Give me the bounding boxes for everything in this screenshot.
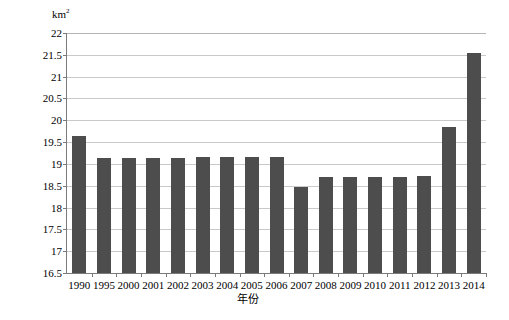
x-axis-tick-label: 2003	[192, 279, 214, 291]
y-axis-unit-label: km2	[52, 8, 70, 20]
x-axis-tick-label: 2000	[118, 279, 140, 291]
y-axis-unit-superscript: 2	[66, 7, 70, 15]
bar[interactable]	[146, 158, 160, 273]
y-axis-tick-label: 18.5	[43, 180, 62, 191]
x-axis-tick-mark	[264, 273, 265, 277]
bar[interactable]	[122, 158, 136, 273]
x-axis-tick-mark	[437, 273, 438, 277]
x-axis-tick-label: 1990	[68, 279, 90, 291]
x-axis-title: 年份	[0, 293, 509, 306]
y-axis-tick-label: 21.5	[43, 49, 62, 60]
x-axis-tick-mark	[116, 273, 117, 277]
y-axis-tick-label: 17.5	[43, 224, 62, 235]
y-axis-tick-label: 19.5	[43, 137, 62, 148]
x-axis-tick-mark	[289, 273, 290, 277]
x-axis-tick-label: 2014	[463, 279, 485, 291]
x-axis-tick-label: 2012	[413, 279, 435, 291]
bar[interactable]	[97, 158, 111, 273]
x-axis-tick-label: 2011	[389, 279, 411, 291]
y-axis-tick-label: 16.5	[43, 268, 62, 279]
x-axis-tick-label: 2004	[216, 279, 238, 291]
x-axis-tick-label: 2007	[290, 279, 312, 291]
x-axis-tick-mark	[313, 273, 314, 277]
x-axis-tick-label: 2013	[438, 279, 460, 291]
bar[interactable]	[467, 53, 481, 273]
x-axis-tick-mark	[387, 273, 388, 277]
bar[interactable]	[417, 176, 431, 273]
y-axis-unit-base: km	[52, 8, 66, 20]
bar[interactable]	[294, 187, 308, 273]
x-axis-tick-label: 2005	[241, 279, 263, 291]
x-axis-tick-mark	[141, 273, 142, 277]
x-axis-tick-mark	[240, 273, 241, 277]
x-axis-tick-label: 1995	[93, 279, 115, 291]
x-axis-tick-label: 2010	[364, 279, 386, 291]
bar[interactable]	[270, 157, 284, 273]
plot-area: 16.51717.51818.51919.52020.52121.522 199…	[66, 33, 486, 274]
bar[interactable]	[442, 127, 456, 273]
bar[interactable]	[245, 157, 259, 273]
x-axis-tick-mark	[461, 273, 462, 277]
y-axis-tick-label: 18	[51, 202, 62, 213]
x-axis-tick-mark	[363, 273, 364, 277]
bar-chart: km2 16.51717.51818.51919.52020.52121.522…	[0, 0, 509, 320]
y-axis-tick-label: 21	[51, 71, 62, 82]
x-axis-tick-label: 2009	[339, 279, 361, 291]
x-axis-tick-label: 2002	[167, 279, 189, 291]
y-axis-tick-mark	[63, 273, 67, 274]
y-axis-tick-label: 17	[51, 246, 62, 257]
x-axis-tick-mark	[215, 273, 216, 277]
x-axis-tick-mark	[190, 273, 191, 277]
y-axis-tick-label: 19	[51, 158, 62, 169]
x-axis-title-text: 年份	[237, 293, 259, 306]
bar[interactable]	[196, 157, 210, 273]
x-axis-tick-mark	[92, 273, 93, 277]
bar[interactable]	[220, 157, 234, 273]
x-axis-tick-label: 2008	[315, 279, 337, 291]
x-axis-tick-mark	[166, 273, 167, 277]
x-axis-tick-mark	[486, 273, 487, 277]
bar[interactable]	[393, 177, 407, 273]
bar[interactable]	[319, 177, 333, 273]
bar[interactable]	[72, 136, 86, 273]
bar[interactable]	[368, 177, 382, 273]
y-axis-tick-label: 22	[51, 28, 62, 39]
x-axis-tick-label: 2001	[142, 279, 164, 291]
bars-layer	[67, 33, 486, 273]
x-axis-tick-mark	[338, 273, 339, 277]
y-axis-tick-label: 20.5	[43, 93, 62, 104]
bar[interactable]	[171, 158, 185, 273]
bar[interactable]	[343, 177, 357, 273]
x-axis-tick-mark	[412, 273, 413, 277]
x-axis-tick-label: 2006	[266, 279, 288, 291]
y-axis-tick-label: 20	[51, 115, 62, 126]
